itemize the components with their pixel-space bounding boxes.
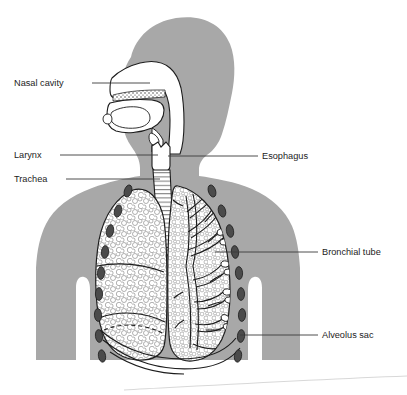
label-esophagus: Esophagus — [262, 151, 308, 161]
label-larynx: Larynx — [14, 150, 42, 160]
larynx-structure — [152, 142, 170, 172]
label-trachea: Trachea — [14, 174, 48, 184]
rib-oval — [238, 308, 246, 321]
rib-oval — [94, 308, 102, 321]
label-nasal-cavity: Nasal cavity — [14, 78, 64, 88]
tongue — [111, 107, 150, 129]
larynx — [152, 142, 170, 172]
rib-oval — [95, 288, 102, 301]
rib-oval — [235, 266, 243, 279]
anatomy-diagram-svg: Nasal cavity Larynx Trachea Esophagus Br… — [0, 0, 407, 395]
rib-oval — [97, 266, 105, 279]
lips — [103, 114, 112, 124]
scan-artifact-line — [124, 376, 407, 390]
respiratory-system-figure: Nasal cavity Larynx Trachea Esophagus Br… — [0, 0, 407, 395]
rib-oval — [237, 288, 244, 301]
label-alveolus-sac: Alveolus sac — [322, 330, 374, 340]
label-bronchial-tube: Bronchial tube — [322, 247, 381, 257]
